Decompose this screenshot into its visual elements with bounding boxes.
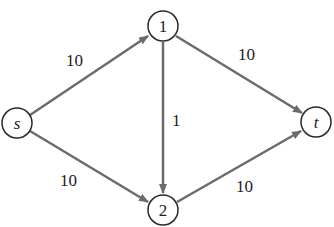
capacity-label-s-1: 10	[66, 51, 83, 70]
capacity-label-1-t: 10	[238, 45, 255, 64]
capacity-label-2-t: 10	[236, 177, 253, 196]
node-label-1: 1	[159, 17, 168, 36]
node-1: 1	[148, 11, 178, 41]
flow-network-diagram: 10 10 1 10 10 s 1 2 t	[0, 0, 334, 227]
node-s: s	[2, 108, 32, 138]
node-label-2: 2	[159, 201, 168, 220]
edge-s-1	[30, 36, 148, 115]
node-2: 2	[148, 195, 178, 225]
node-label-s: s	[14, 114, 21, 133]
capacity-label-s-2: 10	[60, 171, 77, 190]
node-t: t	[301, 107, 331, 137]
edge-s-2	[30, 131, 148, 202]
capacity-label-1-2: 1	[172, 111, 181, 130]
